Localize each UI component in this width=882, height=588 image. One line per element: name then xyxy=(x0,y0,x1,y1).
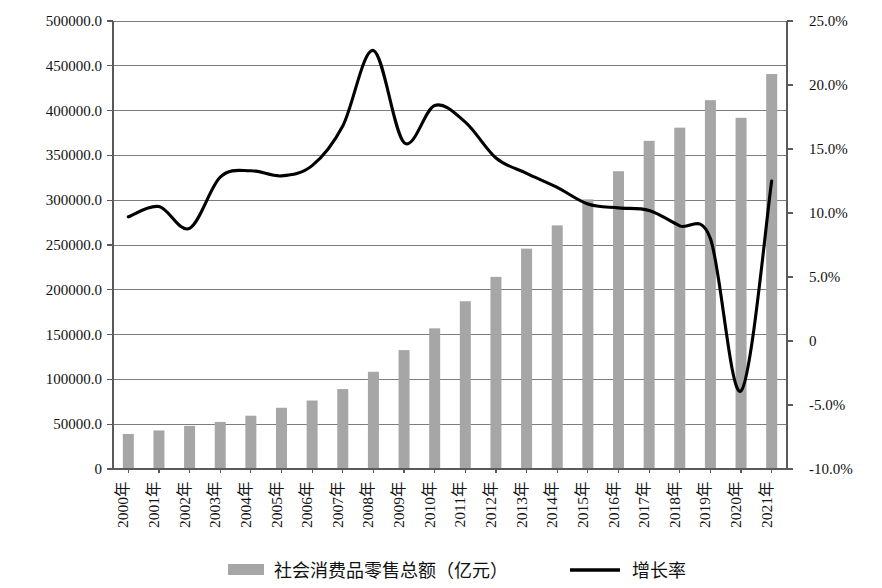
right-axis-labels-group: -10.0%-5.0%05.0%10.0%15.0%20.0%25.0% xyxy=(809,13,853,477)
right-axis-tick-label: -5.0% xyxy=(809,397,845,413)
bar xyxy=(521,249,532,469)
left-axis-tick-label: 500000.0 xyxy=(46,13,102,29)
chart-container: 050000.0100000.0150000.0200000.0250000.0… xyxy=(0,0,882,588)
bar xyxy=(307,401,318,469)
bar xyxy=(368,372,379,469)
bar xyxy=(276,408,287,469)
legend-swatch-bar xyxy=(228,564,264,575)
legend-label-retail-total: 社会消费品零售总额（亿元） xyxy=(274,561,508,581)
left-axis-tick-label: 250000.0 xyxy=(46,237,102,253)
bar xyxy=(399,350,410,469)
right-axis-tick-label: -10.0% xyxy=(809,461,853,477)
left-axis-tick-label: 200000.0 xyxy=(46,282,102,298)
left-axis-tick-label: 300000.0 xyxy=(46,192,102,208)
category-axis-labels-group: 2000年2001年2002年2003年2004年2005年2006年2007年… xyxy=(114,469,774,528)
category-axis-label: 2013年 xyxy=(513,481,530,528)
category-axis-label: 2000年 xyxy=(114,481,131,528)
bar xyxy=(429,328,440,469)
bar xyxy=(490,277,501,469)
category-axis-label: 2011年 xyxy=(451,481,468,527)
left-axis-tick-label: 350000.0 xyxy=(46,147,102,163)
bar xyxy=(245,416,256,469)
bar xyxy=(766,74,777,469)
bar xyxy=(582,199,593,469)
bar xyxy=(705,100,716,469)
category-axis-label: 2007年 xyxy=(329,481,346,528)
left-axis-tick-label: 150000.0 xyxy=(46,327,102,343)
left-axis-tick-label: 100000.0 xyxy=(46,371,102,387)
right-axis-tick-label: 0 xyxy=(809,333,817,349)
legend-group: 社会消费品零售总额（亿元）增长率 xyxy=(228,561,686,581)
category-axis-label: 2012年 xyxy=(482,481,499,528)
bar xyxy=(215,422,226,469)
left-axis-tick-label: 450000.0 xyxy=(46,58,102,74)
right-axis-tick-label: 10.0% xyxy=(809,205,848,221)
bar xyxy=(460,301,471,469)
category-axis-label: 2001年 xyxy=(145,481,162,528)
bar xyxy=(153,430,164,469)
category-axis-label: 2014年 xyxy=(543,481,560,528)
right-axis-tick-label: 25.0% xyxy=(809,13,848,29)
bar xyxy=(184,426,195,469)
left-axis-ticks-group xyxy=(107,21,113,469)
bar xyxy=(337,389,348,469)
right-axis-tick-label: 20.0% xyxy=(809,77,848,93)
gridlines-group xyxy=(113,21,787,469)
category-axis-label: 2016年 xyxy=(605,481,622,528)
bar xyxy=(736,118,747,469)
category-axis-label: 2002年 xyxy=(176,481,193,528)
bar xyxy=(552,225,563,469)
chart-svg: 050000.0100000.0150000.0200000.0250000.0… xyxy=(0,0,882,588)
bar-series-group xyxy=(123,74,777,469)
bar xyxy=(123,434,134,469)
category-axis-label: 2003年 xyxy=(206,481,223,528)
bar xyxy=(674,128,685,469)
category-axis-label: 2018年 xyxy=(666,481,683,528)
right-axis-tick-label: 5.0% xyxy=(809,269,840,285)
category-axis-label: 2020年 xyxy=(727,481,744,528)
left-axis-tick-label: 0 xyxy=(95,461,103,477)
category-axis-label: 2021年 xyxy=(758,481,775,528)
category-axis-label: 2017年 xyxy=(635,481,652,528)
category-axis-label: 2010年 xyxy=(421,481,438,528)
right-axis-tick-label: 15.0% xyxy=(809,141,848,157)
category-axis-label: 2006年 xyxy=(298,481,315,528)
right-axis-ticks-group xyxy=(787,21,793,469)
category-axis-label: 2009年 xyxy=(390,481,407,528)
category-axis-label: 2019年 xyxy=(696,481,713,528)
legend-label-growth-rate: 增长率 xyxy=(632,561,686,581)
bar xyxy=(613,171,624,469)
bar xyxy=(644,141,655,469)
category-axis-label: 2015年 xyxy=(574,481,591,528)
category-axis-label: 2004年 xyxy=(237,481,254,528)
left-axis-tick-label: 50000.0 xyxy=(53,416,102,432)
left-axis-labels-group: 050000.0100000.0150000.0200000.0250000.0… xyxy=(46,13,102,477)
left-axis-tick-label: 400000.0 xyxy=(46,103,102,119)
category-axis-label: 2005年 xyxy=(268,481,285,528)
category-axis-label: 2008年 xyxy=(359,481,376,528)
